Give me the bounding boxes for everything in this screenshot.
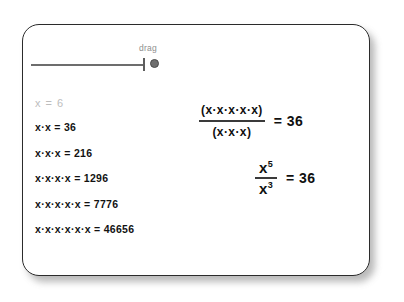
variable-value-readout: x = 6	[35, 97, 64, 109]
expansion-list: x·x = 36 x·x·x = 216 x·x·x·x = 1296 x·x·…	[35, 121, 225, 249]
expansion-row: x·x·x = 216	[35, 147, 225, 159]
math-applet-card: drag x = 6 x·x = 36 x·x·x = 216 x·x·x·x …	[22, 24, 370, 276]
power-fraction-equation: x5 x3 = 36	[255, 159, 316, 197]
drag-slider[interactable]: drag	[31, 51, 281, 77]
fraction-numerator: (x·x·x·x·x)	[199, 103, 265, 117]
expanded-fraction: (x·x·x·x·x) (x·x·x)	[199, 103, 265, 139]
power-numerator-exponent: 5	[268, 159, 273, 169]
expanded-fraction-equation: (x·x·x·x·x) (x·x·x) = 36	[199, 103, 303, 139]
slider-drag-label: drag	[139, 43, 157, 53]
fraction-denominator: (x·x·x)	[210, 125, 253, 139]
fraction-bar	[199, 120, 265, 122]
power-numerator-base: x	[259, 159, 268, 176]
slider-handle[interactable]	[150, 59, 159, 68]
expansion-row: x·x = 36	[35, 121, 225, 133]
slider-track[interactable]	[31, 64, 144, 66]
power-fraction: x5 x3	[255, 159, 277, 197]
slider-end-tick	[143, 58, 145, 71]
fraction-bar	[255, 177, 277, 179]
power-denominator: x3	[257, 180, 275, 197]
power-denominator-base: x	[259, 180, 268, 197]
expansion-row: x·x·x·x·x = 7776	[35, 198, 225, 210]
expansion-row: x·x·x·x·x·x = 46656	[35, 223, 225, 235]
power-fraction-result: = 36	[286, 170, 316, 186]
expansion-row: x·x·x·x = 1296	[35, 172, 225, 184]
power-denominator-exponent: 3	[268, 180, 273, 190]
power-numerator: x5	[257, 159, 275, 176]
fraction-result: = 36	[274, 113, 304, 129]
